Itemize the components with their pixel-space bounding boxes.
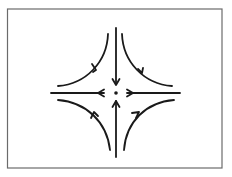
saddle-point-diagram <box>0 0 232 177</box>
equilibrium-point <box>114 91 118 95</box>
diagram-frame <box>8 9 223 168</box>
